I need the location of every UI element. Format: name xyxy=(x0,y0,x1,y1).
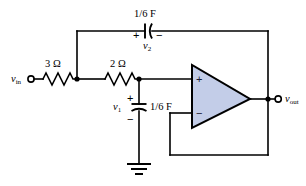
resistor-3ohm-symbol xyxy=(43,73,77,85)
input-terminal-ring xyxy=(28,76,34,82)
output-terminal-ring xyxy=(275,96,281,102)
resistor-3ohm-label: 3 Ω xyxy=(45,59,61,70)
opamp-noninverting-sign: + xyxy=(196,73,202,85)
resistor-2ohm-label: 2 Ω xyxy=(110,59,126,70)
circuit-diagram: vin vout 3 Ω 2 Ω 1/6 F + − v2 1/6 F + − … xyxy=(0,0,306,186)
capacitor-bottom-label: 1/6 F xyxy=(150,102,172,113)
resistor-2ohm-symbol xyxy=(105,73,139,85)
opamp-inverting-sign: − xyxy=(196,107,202,119)
input-terminal-label: vin xyxy=(11,74,21,86)
capacitor-bottom-voltage-label: v1 xyxy=(113,102,121,114)
output-terminal-label: vout xyxy=(285,94,299,106)
node-dot-output xyxy=(265,96,270,101)
capacitor-bottom-plus-sign: + xyxy=(127,93,133,104)
capacitor-bottom-minus-sign: − xyxy=(127,114,133,125)
capacitor-top-plus-sign: + xyxy=(133,30,139,41)
capacitor-top-voltage-label: v2 xyxy=(143,41,151,53)
capacitor-top-minus-sign: − xyxy=(156,30,162,41)
capacitor-top-label: 1/6 F xyxy=(134,9,156,20)
circuit-schematic-svg xyxy=(0,0,306,186)
